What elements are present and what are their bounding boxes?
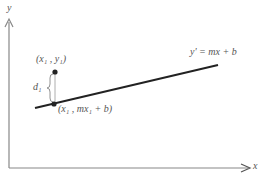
residual-label: d₁ bbox=[33, 81, 41, 92]
y-axis-label: y bbox=[7, 2, 11, 13]
predicted-point bbox=[51, 101, 56, 106]
observed-point bbox=[52, 69, 57, 74]
regression-line bbox=[35, 65, 218, 108]
line-equation-label: y' = mx + b bbox=[190, 46, 237, 57]
residual-brace-icon bbox=[47, 74, 53, 102]
diagram-canvas bbox=[0, 0, 268, 186]
x-axis-label: x bbox=[253, 160, 257, 171]
regression-diagram: y x y' = mx + b (x₁ , y₁) (x₁ , mx₁ + b)… bbox=[0, 0, 268, 186]
predicted-point-label: (x₁ , mx₁ + b) bbox=[58, 103, 112, 114]
observed-point-label: (x₁ , y₁) bbox=[36, 53, 66, 64]
